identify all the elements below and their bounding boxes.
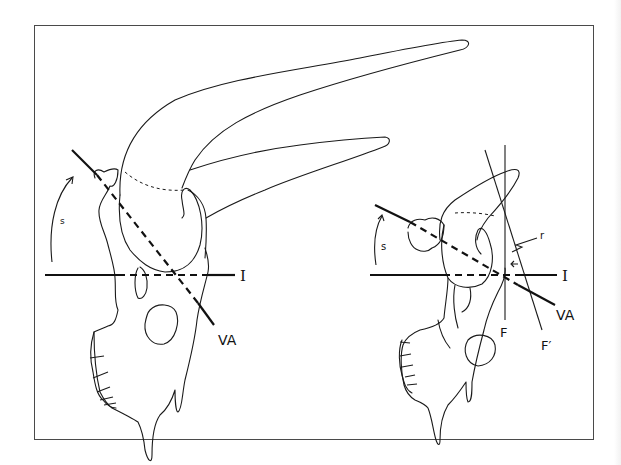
left-skull-outline (94, 169, 209, 461)
left-skull-figure: s I VA (45, 40, 469, 461)
skull-horn-diagram: s I VA (0, 0, 621, 465)
diagram-canvas: s I VA (0, 0, 621, 465)
right-r-arrow (511, 261, 518, 267)
right-label-F: F (500, 325, 507, 340)
right-r-leader-line (512, 238, 537, 252)
right-orbit (465, 335, 495, 366)
right-label-I: I (562, 267, 568, 285)
left-long-horn (120, 40, 469, 195)
right-label-s: s (381, 241, 386, 252)
left-horn-base-hidden-edge (125, 172, 185, 190)
left-vertical-axis-VA-solid-top (72, 150, 97, 175)
right-vertical-axis-VA-solid-bottom (518, 285, 555, 305)
right-frontal-line-F-prime (485, 150, 542, 330)
left-label-VA: VA (218, 332, 237, 348)
left-orbit (145, 305, 178, 344)
left-small-foramen (135, 267, 147, 298)
right-label-VA: VA (556, 307, 575, 323)
right-inner-ridge-2 (462, 288, 471, 312)
right-label-F-prime: F′ (541, 338, 551, 353)
left-horn-base (119, 188, 202, 272)
right-tooth-divider-4 (405, 375, 415, 377)
left-vertical-axis-VA-solid-bottom (198, 303, 214, 325)
left-tooth-divider-2 (93, 372, 108, 378)
right-inner-ridge-1 (454, 285, 458, 328)
left-label-I: I (240, 267, 246, 285)
right-skull-outline (401, 218, 505, 445)
right-tooth-divider-3 (402, 365, 413, 367)
left-tooth-divider-1 (90, 356, 104, 358)
right-inner-ridge-3 (438, 320, 450, 348)
left-short-horn (190, 137, 389, 218)
right-skull-figure: r s I VA F F′ (370, 145, 575, 445)
right-tooth-divider-5 (407, 384, 417, 385)
right-horn-base-hidden-edge (455, 213, 495, 216)
right-label-r: r (540, 230, 545, 241)
left-label-s: s (60, 216, 65, 226)
